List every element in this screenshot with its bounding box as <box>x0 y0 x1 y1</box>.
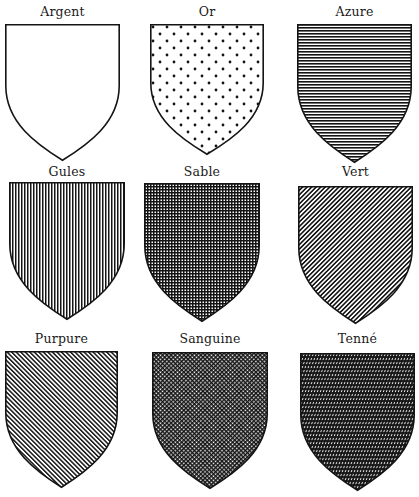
tincture-label-vert: Vert <box>342 164 369 179</box>
shield-azure <box>297 24 412 163</box>
tincture-label-sanguine: Sanguine <box>179 331 240 346</box>
shield-argent <box>5 24 120 161</box>
tincture-label-or: Or <box>199 4 216 19</box>
shield-vert <box>298 186 413 324</box>
shield-gules <box>9 182 125 320</box>
shield-purpure <box>5 351 118 488</box>
tincture-label-sable: Sable <box>184 164 220 179</box>
shield-sable <box>144 183 260 322</box>
shield-tenn <box>300 353 415 491</box>
tincture-label-azure: Azure <box>335 4 373 19</box>
tincture-label-gules: Gules <box>49 164 86 179</box>
shield-or <box>150 24 264 155</box>
tincture-label-tenn: Tenné <box>338 331 377 346</box>
tincture-label-purpure: Purpure <box>35 331 88 346</box>
shield-sanguine <box>152 352 268 489</box>
tincture-label-argent: Argent <box>40 4 85 19</box>
